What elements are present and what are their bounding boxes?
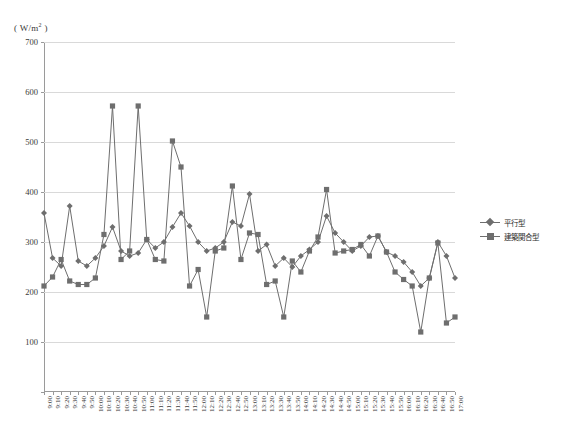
x-axis-tick [404, 392, 405, 395]
x-axis-tick-label: 16:00 [406, 396, 413, 412]
x-axis-tick-label: 14:00 [303, 396, 310, 412]
x-axis-tick-label: 10:00 [98, 396, 105, 412]
y-axis-tick-label: 400 [25, 187, 38, 197]
plot-area: 100200300400500600700 [44, 42, 455, 392]
x-axis-tick-label: 10:40 [132, 396, 139, 412]
x-axis-tick-label: 13:20 [269, 396, 276, 412]
data-point-square [153, 257, 158, 262]
data-point-square [213, 248, 218, 253]
x-axis-tick-label: 9:10 [55, 396, 62, 408]
x-axis-tick [181, 392, 182, 395]
data-point-square [178, 164, 183, 169]
x-axis-tick [387, 392, 388, 395]
x-axis-tick-label: 16:20 [423, 396, 430, 412]
x-axis-tick [378, 392, 379, 395]
data-point-square [144, 237, 149, 242]
x-axis-tick-label: 15:00 [355, 396, 362, 412]
legend-item-series1[interactable]: 平行型 [480, 216, 539, 228]
data-point-diamond [67, 203, 73, 209]
x-axis-tick [138, 392, 139, 395]
x-axis-tick-label: 11:10 [158, 396, 165, 412]
y-axis-tick-label: 700 [25, 37, 38, 47]
data-point-square [452, 314, 457, 319]
x-axis-tick-label: 14:50 [346, 396, 353, 412]
data-point-square [161, 258, 166, 263]
x-axis-tick [113, 392, 114, 395]
data-point-square [196, 267, 201, 272]
x-axis-tick [78, 392, 79, 395]
y-axis-tick-label: 300 [25, 237, 38, 247]
data-point-square [367, 253, 372, 258]
x-axis-tick-label: 12:20 [218, 396, 225, 412]
x-axis-tick [130, 392, 131, 395]
data-point-diamond [324, 213, 330, 219]
x-axis-tick [344, 392, 345, 395]
x-axis-tick [309, 392, 310, 395]
data-point-diamond [161, 239, 167, 245]
data-point-square [410, 283, 415, 288]
x-axis-tick [369, 392, 370, 395]
x-axis-tick-label: 15:20 [372, 396, 379, 412]
data-point-diamond [41, 210, 47, 216]
data-point-square [93, 275, 98, 280]
x-axis-tick [421, 392, 422, 395]
data-point-square [358, 242, 363, 247]
x-axis-tick-label: 12:10 [209, 396, 216, 412]
data-point-square [264, 282, 269, 287]
x-axis-tick-label: 13:40 [286, 396, 293, 412]
data-point-square [170, 138, 175, 143]
x-axis-tick [455, 392, 456, 395]
x-axis-tick-label: 15:30 [380, 396, 387, 412]
data-point-square [273, 278, 278, 283]
x-axis-tick [190, 392, 191, 395]
x-axis-tick-label: 17:00 [458, 396, 465, 412]
x-axis-tick-label: 16:30 [432, 396, 439, 412]
x-axis-tick-label: 16:40 [440, 396, 447, 412]
x-axis-tick-label: 12:40 [235, 396, 242, 412]
chart-legend: 平行型 建築関合型 [480, 216, 539, 244]
x-axis-tick [429, 392, 430, 395]
x-axis-tick-label: 13:00 [252, 396, 259, 412]
x-axis-tick-label: 13:10 [261, 396, 268, 412]
data-point-square [281, 314, 286, 319]
data-point-square [427, 275, 432, 280]
data-point-square [392, 269, 397, 274]
data-point-diamond [187, 223, 193, 229]
data-point-square [136, 103, 141, 108]
x-axis-tick-label: 9:30 [72, 396, 79, 408]
data-point-square [67, 278, 72, 283]
data-point-square [255, 232, 260, 237]
data-point-diamond [229, 219, 235, 225]
x-axis-tick-label: 9:00 [47, 396, 54, 408]
legend-item-series2[interactable]: 建築関合型 [480, 230, 539, 242]
x-axis-tick-label: 13:30 [278, 396, 285, 412]
x-axis-tick-label: 10:30 [124, 396, 131, 412]
x-axis-tick [44, 392, 45, 395]
x-axis-tick [292, 392, 293, 395]
data-point-diamond [238, 223, 244, 229]
data-point-diamond [247, 191, 253, 197]
x-axis-tick-label: 9:20 [64, 396, 71, 408]
x-axis-tick-label: 14:10 [312, 396, 319, 412]
x-axis-tick-label: 16:50 [449, 396, 456, 412]
data-point-square [221, 245, 226, 250]
x-axis-tick-label: 11:40 [184, 396, 191, 412]
x-axis-tick-label: 10:50 [141, 396, 148, 412]
x-axis-tick [87, 392, 88, 395]
data-point-square [230, 183, 235, 188]
data-point-square [298, 269, 303, 274]
data-point-diamond [443, 253, 449, 259]
y-axis-unit-text: ( W/m2 ) [14, 23, 48, 33]
x-axis-tick-label: 9:40 [81, 396, 88, 408]
data-point-square [127, 248, 132, 253]
data-point-square [204, 314, 209, 319]
x-axis-tick [215, 392, 216, 395]
x-axis-tick [267, 392, 268, 395]
data-point-square [333, 250, 338, 255]
x-axis-tick [352, 392, 353, 395]
data-point-square [307, 248, 312, 253]
data-point-square [350, 247, 355, 252]
data-point-square [315, 234, 320, 239]
data-point-square [50, 274, 55, 279]
x-axis-tick-label: 15:10 [363, 396, 370, 412]
